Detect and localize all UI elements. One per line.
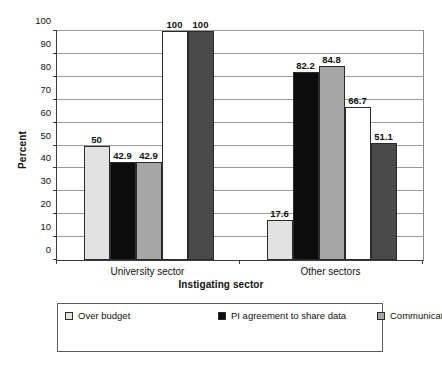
y-tick-label: 10 — [21, 221, 57, 232]
bar-value-label: 50 — [91, 134, 102, 145]
legend-swatch-icon — [218, 312, 226, 320]
y-tick-label: 90 — [21, 37, 57, 48]
bar-value-label: 84.8 — [322, 54, 341, 65]
x-axis-title: Instigating sector — [0, 279, 442, 290]
y-tick-label: 40 — [21, 152, 57, 163]
bar-value-label: 42.9 — [139, 150, 158, 161]
bar-series-container: 5042.942.910010017.682.284.866.751.1 — [57, 31, 423, 260]
y-tick-label: 20 — [21, 198, 57, 209]
bar-value-label: 42.9 — [113, 150, 132, 161]
x-tick-label: University sector — [111, 266, 185, 277]
bar-chart-figure: Percent 0102030405060708090100 5042.942.… — [0, 0, 442, 365]
bar: 100 — [188, 31, 214, 260]
bar: 82.2 — [293, 72, 319, 260]
bar: 100 — [162, 31, 188, 260]
y-tick-label: 70 — [21, 83, 57, 94]
bar: 66.7 — [345, 107, 371, 260]
legend-swatch-icon — [377, 312, 385, 320]
legend-label: PI agreement to share data — [231, 309, 346, 322]
bar-value-label: 66.7 — [348, 95, 367, 106]
legend-items: Over budgetPI agreement to share dataCom… — [65, 309, 377, 322]
bar: 42.9 — [136, 162, 162, 260]
legend-label: Over budget — [78, 309, 130, 322]
bar: 50 — [84, 146, 110, 261]
x-axis-ticks: University sectorOther sectors — [56, 260, 424, 280]
bar: 42.9 — [110, 162, 136, 260]
bar-value-label: 100 — [167, 19, 183, 30]
plot-area: 0102030405060708090100 5042.942.91001001… — [56, 30, 424, 261]
legend-swatch-icon — [65, 312, 73, 320]
legend-label: Communication center — [390, 309, 442, 322]
bar: 84.8 — [319, 66, 345, 260]
bar-value-label: 100 — [193, 19, 209, 30]
y-tick-label: 60 — [21, 106, 57, 117]
x-tick-label: Other sectors — [300, 266, 360, 277]
y-tick-label: 30 — [21, 175, 57, 186]
bar-value-label: 51.1 — [374, 131, 393, 142]
legend-item[interactable]: Communication center — [377, 309, 442, 322]
y-tick-label: 0 — [21, 244, 57, 255]
bar-value-label: 82.2 — [296, 60, 315, 71]
x-tick-mark — [422, 260, 423, 264]
y-tick-label: 80 — [21, 60, 57, 71]
y-tick-label: 100 — [21, 15, 57, 26]
chart-legend: Over budgetPI agreement to share dataCom… — [57, 303, 383, 352]
legend-item[interactable]: Over budget — [65, 309, 218, 322]
x-tick-mark — [56, 260, 57, 264]
y-tick-label: 50 — [21, 129, 57, 140]
legend-item[interactable]: PI agreement to share data — [218, 309, 377, 322]
bar-value-label: 17.6 — [270, 208, 289, 219]
bar: 51.1 — [371, 143, 397, 260]
x-tick-mark — [239, 260, 240, 264]
bar: 17.6 — [267, 220, 293, 260]
